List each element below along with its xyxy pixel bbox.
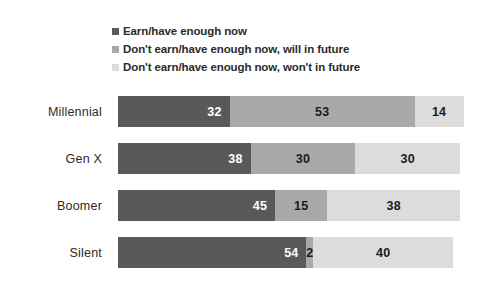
legend-item-earn-have-enough-now: Earn/have enough now: [112, 22, 472, 40]
legend-item-wont-in-future: Don't earn/have enough now, won't in fut…: [112, 58, 472, 76]
bar-segment: 40: [313, 237, 453, 268]
category-label: Millennial: [0, 96, 110, 127]
bar-segment-value: 30: [296, 152, 310, 166]
legend-item-will-in-future: Don't earn/have enough now, will in futu…: [112, 40, 472, 58]
stacked-bar: 451538: [118, 190, 467, 221]
legend-swatch-icon: [112, 28, 119, 35]
category-label: Boomer: [0, 190, 110, 221]
bar-segment-value: 53: [315, 105, 329, 119]
legend-item-label: Earn/have enough now: [123, 25, 247, 38]
bar-segment: 45: [118, 190, 275, 221]
bar-segment-value: 14: [432, 105, 446, 119]
bar-segment: 38: [118, 143, 251, 174]
legend-item-label: Don't earn/have enough now, won't in fut…: [123, 61, 360, 74]
stacked-bar: 383030: [118, 143, 467, 174]
legend-swatch-icon: [112, 64, 119, 71]
chart-legend: Earn/have enough now Don't earn/have eno…: [112, 22, 472, 76]
stacked-bar: 54240: [118, 237, 467, 268]
bar-segment-value: 45: [253, 199, 267, 213]
bar-row: Gen X383030: [0, 143, 492, 174]
bar-segment: 32: [118, 96, 230, 127]
bar-segment: 14: [415, 96, 464, 127]
plot-area: Millennial325314Gen X383030Boomer451538S…: [0, 96, 492, 286]
category-label: Silent: [0, 237, 110, 268]
bar-segment-value: 54: [284, 246, 298, 260]
bar-segment: 53: [230, 96, 415, 127]
bar-segment: 38: [327, 190, 460, 221]
bar-row: Millennial325314: [0, 96, 492, 127]
bar-segment-value: 38: [228, 152, 242, 166]
bar-segment: 2: [306, 237, 313, 268]
bar-segment-value: 30: [400, 152, 414, 166]
bar-row: Silent54240: [0, 237, 492, 268]
bar-segment-value: 32: [207, 105, 221, 119]
legend-item-label: Don't earn/have enough now, will in futu…: [123, 43, 349, 56]
stacked-bar-chart: Earn/have enough now Don't earn/have eno…: [0, 0, 492, 291]
bar-segment-value: 38: [387, 199, 401, 213]
stacked-bar: 325314: [118, 96, 467, 127]
bar-segment: 30: [251, 143, 356, 174]
bar-row: Boomer451538: [0, 190, 492, 221]
legend-swatch-icon: [112, 46, 119, 53]
bar-segment: 15: [275, 190, 327, 221]
bar-segment-value: 15: [294, 199, 308, 213]
bar-segment-value: 40: [376, 246, 390, 260]
bar-segment: 30: [355, 143, 460, 174]
category-label: Gen X: [0, 143, 110, 174]
bar-segment: 54: [118, 237, 306, 268]
